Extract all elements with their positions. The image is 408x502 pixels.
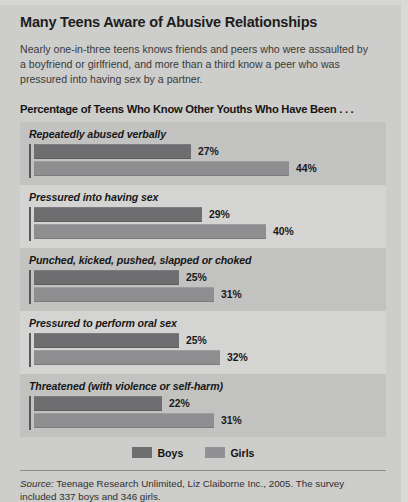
chart-bar-row: 22% (34, 396, 386, 411)
chart-group: Punched, kicked, pushed, slapped or chok… (20, 248, 386, 311)
chart-bar-row: 25% (34, 270, 386, 285)
chart-bar-row: 25% (34, 333, 386, 348)
chart-bar-girls (34, 161, 289, 176)
chart-bar-value: 32% (227, 350, 248, 365)
chart-bar-value: 44% (296, 161, 317, 176)
chart-bar-row: 44% (34, 161, 386, 176)
chart-bar-value: 22% (169, 396, 190, 411)
chart-bar-value: 29% (209, 207, 230, 222)
chart-bar-row: 31% (34, 287, 386, 302)
chart-section-header: Percentage of Teens Who Know Other Youth… (20, 103, 381, 115)
chart-bar-value: 31% (221, 287, 242, 302)
chart-group-label: Repeatedly abused verbally (20, 128, 386, 144)
chart-bar-value: 31% (221, 413, 242, 428)
chart-bar-row: 31% (34, 413, 386, 428)
chart-group-plot: 25%31% (29, 270, 386, 304)
legend-item-boys: Boys (132, 447, 183, 459)
legend-item-girls: Girls (205, 447, 254, 459)
legend-label-girls: Girls (230, 447, 254, 459)
chart-group: Pressured to perform oral sex25%32% (20, 311, 386, 374)
chart-bar-row: 40% (34, 224, 386, 239)
chart-bar-boys (34, 144, 191, 159)
legend-swatch-boys-icon (132, 447, 152, 458)
chart-group-plot: 25%32% (29, 333, 386, 367)
chart-bar-boys (34, 270, 179, 285)
chart-group-label: Threatened (with violence or self-harm) (20, 380, 386, 396)
grouped-bar-chart: Repeatedly abused verbally27%44%Pressure… (20, 122, 386, 437)
chart-group: Pressured into having sex29%40% (20, 185, 386, 248)
chart-group-label: Pressured to perform oral sex (20, 317, 386, 333)
infographic-panel: Many Teens Aware of Abusive Relationship… (0, 0, 408, 502)
chart-bar-girls (34, 413, 214, 428)
chart-group-label: Punched, kicked, pushed, slapped or chok… (20, 254, 386, 270)
chart-bar-row: 32% (34, 350, 386, 365)
source-text: Teenage Research Unlimited, Liz Claiborn… (20, 478, 344, 502)
chart-group: Threatened (with violence or self-harm)2… (20, 374, 386, 437)
chart-bar-girls (34, 224, 266, 239)
chart-bar-girls (34, 287, 214, 302)
chart-bar-row: 27% (34, 144, 386, 159)
chart-group: Repeatedly abused verbally27%44% (20, 122, 386, 185)
chart-bar-boys (34, 207, 202, 222)
chart-legend: Boys Girls (20, 447, 381, 459)
legend-swatch-girls-icon (205, 447, 225, 458)
footer-divider (20, 470, 386, 471)
page-title: Many Teens Aware of Abusive Relationship… (20, 14, 381, 31)
legend-label-boys: Boys (157, 447, 183, 459)
infographic-content: Many Teens Aware of Abusive Relationship… (0, 0, 401, 502)
source-prefix: Source: (20, 478, 54, 489)
chart-bar-boys (34, 333, 179, 348)
chart-bar-girls (34, 350, 220, 365)
panel-right-edge (401, 0, 408, 502)
chart-bar-value: 40% (273, 224, 294, 239)
chart-bar-boys (34, 396, 162, 411)
summary-deck: Nearly one-in-three teens knows friends … (20, 42, 370, 87)
chart-group-plot: 27%44% (29, 144, 386, 178)
chart-bar-value: 25% (186, 333, 207, 348)
chart-bar-row: 29% (34, 207, 386, 222)
chart-group-plot: 22%31% (29, 396, 386, 430)
chart-group-label: Pressured into having sex (20, 191, 386, 207)
chart-group-plot: 29%40% (29, 207, 386, 241)
chart-bar-value: 27% (198, 144, 219, 159)
source-note: Source: Teenage Research Unlimited, Liz … (20, 477, 381, 502)
chart-bar-value: 25% (186, 270, 207, 285)
